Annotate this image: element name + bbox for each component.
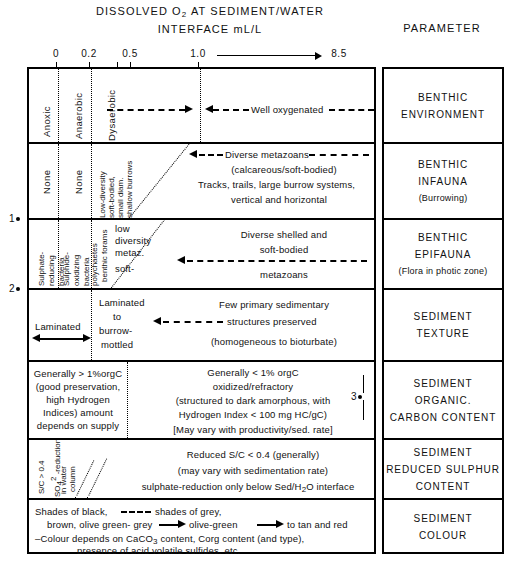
param-line-2: REDUCED SULPHUR [386, 461, 500, 478]
label-laminated-2: Laminated [99, 296, 145, 309]
label-structured: (structured to dark amorphous, with [133, 394, 373, 407]
label-reduced-sc: Reduced S/C < 0.4 (generally) [129, 448, 374, 461]
footnote-leader-bottom [363, 400, 364, 420]
label-structures: structures preserved [227, 315, 317, 328]
arrow-head-left-icon [153, 317, 161, 325]
label-reducing: reducing [47, 255, 56, 286]
arrow-head-left-icon [205, 105, 213, 113]
label-calcareous: (calcareous/soft-bodied) [189, 163, 374, 176]
label-may-vary-sed: (may vary with sedimentation rate) [129, 464, 374, 477]
label-mottled: mottled [101, 338, 133, 351]
label-tan-red: to tan and red [287, 518, 348, 531]
arrow-dash-right [309, 154, 369, 156]
label-none-anoxic: None [41, 170, 52, 194]
label-vert-horiz: vertical and horizontal [179, 193, 374, 206]
label-sulphate-red: sulphate-reduction only below Sed/H2O in… [117, 480, 374, 496]
divider-1-0 [200, 69, 201, 142]
scale-tick-0-5: 0.5 [122, 48, 138, 59]
param-line-1: SEDIMENT [414, 444, 473, 461]
footnote-leader-top [363, 375, 364, 393]
footnote-marker-1: 1 [9, 213, 20, 224]
param-line-2: INFAUNA [418, 173, 468, 190]
colour-arrow-2-icon [178, 520, 186, 528]
label-good-preserv: (good preservation, [29, 380, 127, 393]
param-line-1: SEDIMENT [414, 510, 473, 527]
arrow-dash [163, 321, 223, 323]
label-indices: Indices) amount [29, 406, 127, 419]
label-hydrogen-index: Hydrogen Index < 100 mg HC/gC) [133, 408, 373, 421]
divider-0-2 [91, 290, 92, 360]
label-presence-avs: presence of acid volatile sulfides, etc. [77, 544, 240, 554]
scale-tick-0-2: 0.2 [81, 48, 97, 59]
label-sulphide: Sulphide- [62, 252, 71, 286]
divider-0 [58, 69, 59, 142]
arrow-dash-mid [213, 109, 249, 111]
param-line-1: BENTHIC [418, 89, 468, 106]
label-generally-lt1: Generally < 1% orgC [133, 366, 373, 379]
divider-0-2 [91, 144, 92, 218]
arrow-dash-left [199, 154, 223, 156]
title-line-1: DISSOLVED O2 AT SEDIMENT/WATER [96, 5, 324, 17]
title-line-2: INTERFACE mL/L [60, 22, 360, 37]
scale-tick-1-0: 1.0 [190, 48, 206, 59]
footnote-marker-3: 3 [351, 391, 362, 402]
footnote-dot-icon [16, 217, 20, 221]
label-oxidizing: oxidizing [72, 255, 81, 286]
colour-arrow-3-icon [276, 520, 284, 528]
divider-0-2 [91, 69, 92, 142]
label-olive-green: olive-green [189, 518, 238, 531]
label-brown-olive: brown, olive green- grey [47, 518, 153, 531]
row-benthic-environment: Anoxic Anaerobic Dysaerobic Well oxygena… [29, 69, 374, 144]
label-shades-grey: shades of grey, [155, 505, 222, 518]
label-polychaetes: polychaetes [90, 243, 99, 286]
scale-arrow-head-icon [315, 52, 322, 60]
row-sediment-texture: Laminated Laminated to burrow- mottled F… [29, 290, 374, 362]
label-soft-bodied: soft-bodied [189, 243, 374, 256]
row-reduced-sulphur: S/C > 0.4 SO42 -reduction in water colum… [29, 440, 374, 500]
arrow-head-left-icon [189, 150, 197, 158]
label-anoxic: Anoxic [41, 106, 52, 137]
label-high-hydrogen: high Hydrogen [29, 393, 127, 406]
scale-tick-0: 0 [53, 48, 59, 59]
footnote-dot-icon [358, 395, 362, 399]
divider-0 [58, 144, 59, 218]
label-well-oxygenated: Well oxygenated [251, 103, 323, 116]
param-benthic-epifauna: BENTHIC EPIFAUNA (Flora in photic zone) [384, 220, 502, 290]
label-benthic-forams: benthic forams [100, 230, 109, 282]
param-note: (Flora in photic zone) [399, 263, 488, 280]
label-shallow-burrows: shallow burrows [125, 161, 134, 218]
diagonal-boundary-a [75, 460, 94, 498]
scale-tick-8-5: 8.5 [331, 48, 347, 59]
param-line-2: ENVIRONMENT [401, 106, 485, 123]
label-metazoans: metazoans [189, 268, 374, 281]
footnote-dot-icon [16, 287, 20, 291]
parameter-column-title: PARAMETER [382, 22, 502, 34]
label-may-vary: [May vary with productivity/sed. rate] [133, 423, 373, 436]
label-in-water: in water [59, 466, 68, 494]
row-benthic-infauna: None None Low-diversity soft-bodied, sma… [29, 144, 374, 220]
arrow-dash-left [107, 109, 185, 111]
scale-arrow-line [217, 55, 317, 56]
arrow-line [37, 338, 87, 340]
label-tracks: Tracks, trails, large burrow systems, [169, 178, 374, 191]
label-small-diam: small diam. [116, 178, 125, 218]
label-soft-bodied: soft-bodied, [107, 176, 116, 218]
param-sediment-colour: SEDIMENT COLOUR [384, 500, 502, 554]
label-generally-gt1: Generally > 1%orgC [29, 367, 127, 380]
param-line-1: SEDIMENT [414, 375, 473, 392]
label-sc-gt04: S/C > 0.4 [37, 460, 46, 494]
arrow-head-left-icon [177, 256, 185, 264]
label-anaerobic: Anaerobic [73, 93, 84, 139]
label-few-primary: Few primary sedimentary [169, 298, 374, 311]
label-burrow: burrow- [99, 324, 132, 337]
label-sulphate: Sulphate- [37, 252, 46, 286]
colour-dash-1 [121, 511, 151, 513]
page-title: DISSOLVED O2 AT SEDIMENT/WATER INTERFACE… [60, 4, 360, 37]
row-benthic-epifauna: Sulphate- reducing bacteria Sulphide- ox… [29, 220, 374, 290]
label-metaz: metaz. [115, 246, 144, 259]
param-reduced-sulphur: SEDIMENT REDUCED SULPHUR CONTENT [384, 440, 502, 500]
oxygen-scale: 0 0.2 0.5 1.0 8.5 [27, 48, 377, 66]
label-diverse-metazoans: Diverse metazoans [225, 148, 309, 161]
param-note: (Burrowing) [419, 190, 468, 207]
param-line-1: BENTHIC [418, 156, 468, 173]
